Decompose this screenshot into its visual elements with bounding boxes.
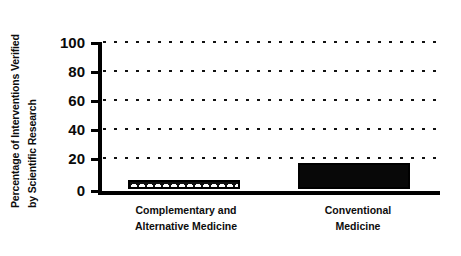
bar-chart-figure: Percentage of Interventions Verified by … bbox=[0, 0, 461, 256]
y-tick-label-80: 80 bbox=[25, 64, 85, 79]
gridline-60 bbox=[103, 99, 440, 101]
plot-area: 100 80 60 40 20 0 bbox=[98, 42, 440, 192]
y-tick-label-60: 60 bbox=[25, 93, 85, 108]
y-axis-spine bbox=[98, 42, 102, 192]
x-category-label-1-line-1: Conventional bbox=[268, 202, 448, 218]
y-tick-mark-0 bbox=[91, 190, 99, 193]
gridline-40 bbox=[103, 128, 440, 130]
y-tick-label-100: 100 bbox=[25, 35, 85, 50]
y-tick-mark-60 bbox=[91, 100, 99, 103]
y-tick-label-40: 40 bbox=[25, 122, 85, 137]
gridline-20 bbox=[103, 157, 440, 159]
y-tick-label-20: 20 bbox=[25, 151, 85, 166]
y-tick-mark-20 bbox=[91, 158, 99, 161]
y-tick-label-0: 0 bbox=[25, 183, 85, 198]
gridline-100 bbox=[103, 41, 440, 43]
x-category-label-1-line-2: Medicine bbox=[268, 218, 448, 234]
x-category-label-0: Complementary and Alternative Medicine bbox=[96, 202, 276, 235]
x-category-label-0-line-2: Alternative Medicine bbox=[96, 218, 276, 234]
y-axis-title-line-1: Percentage of Interventions Verified bbox=[9, 34, 21, 208]
x-category-label-1: Conventional Medicine bbox=[268, 202, 448, 235]
y-tick-mark-80 bbox=[91, 71, 99, 74]
bar-complementary-alternative-medicine bbox=[128, 180, 240, 189]
y-tick-mark-40 bbox=[91, 129, 99, 132]
y-tick-mark-100 bbox=[91, 42, 99, 45]
bar-conventional-medicine bbox=[298, 163, 410, 189]
x-category-label-0-line-1: Complementary and bbox=[96, 202, 276, 218]
gridline-80 bbox=[103, 70, 440, 72]
x-axis-spine bbox=[98, 191, 440, 195]
